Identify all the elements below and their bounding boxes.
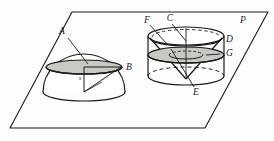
label-g: G xyxy=(226,48,233,58)
hemisphere-base-front xyxy=(43,92,125,101)
label-c: C xyxy=(167,13,174,23)
figure-canvas: A B s F C D G E P xyxy=(0,0,274,141)
geometry-figure: A B s F C D G E P xyxy=(0,0,274,141)
label-p: P xyxy=(239,15,246,25)
label-e: E xyxy=(192,87,199,97)
hemisphere-group xyxy=(43,38,125,101)
label-b: B xyxy=(126,62,132,72)
label-a: A xyxy=(58,26,65,36)
cylinder-group xyxy=(148,24,224,87)
label-d: D xyxy=(225,34,233,44)
label-f: F xyxy=(143,15,150,25)
